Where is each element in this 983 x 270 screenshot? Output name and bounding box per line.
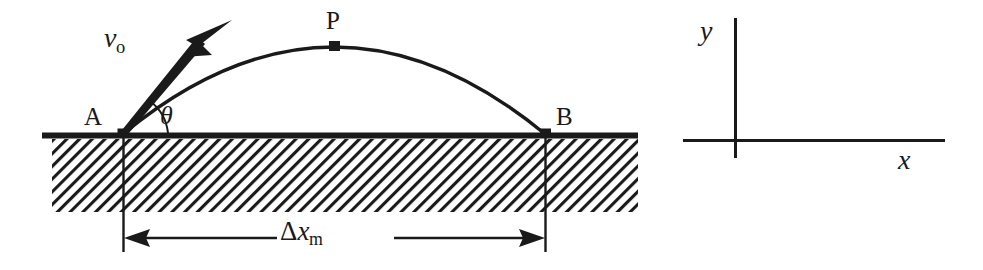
label-axis-x: x — [898, 146, 910, 174]
landing-point-marker — [540, 129, 551, 138]
range-delta-symbol: Δ — [280, 216, 297, 246]
projectile-motion-figure: A B P θ vo Δxm y x — [0, 0, 983, 270]
reference-axes — [683, 18, 945, 158]
label-point-a: A — [84, 104, 102, 129]
velocity-subscript: o — [116, 37, 125, 57]
label-initial-velocity: vo — [104, 24, 126, 52]
initial-velocity-vector — [118, 20, 232, 135]
figure-canvas — [0, 0, 983, 270]
range-dimension-line — [124, 229, 545, 247]
label-axis-y: y — [700, 17, 712, 45]
ground-hatching — [52, 139, 638, 212]
apex-point-marker — [329, 41, 340, 51]
label-launch-angle: θ — [160, 103, 173, 129]
label-range: Δxm — [280, 218, 323, 245]
velocity-symbol: v — [104, 22, 116, 53]
range-subscript: m — [309, 229, 323, 249]
label-point-b: B — [556, 104, 573, 129]
label-point-p: P — [326, 8, 340, 33]
range-variable-symbol: x — [297, 216, 309, 246]
